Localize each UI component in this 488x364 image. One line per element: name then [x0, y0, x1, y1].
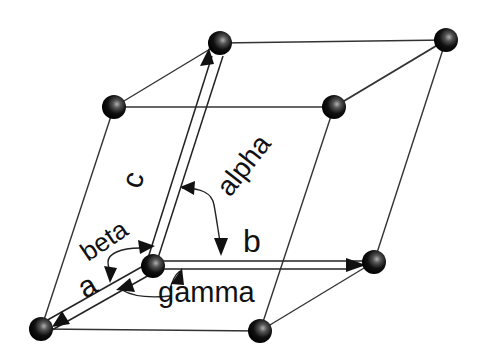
vector-b-arrow [160, 258, 366, 272]
label-b: b [243, 223, 261, 259]
label-a: a [72, 267, 103, 304]
edge-top-right [334, 40, 446, 107]
label-alpha: alpha [210, 128, 277, 201]
label-gamma: gamma [158, 276, 256, 308]
atom-b-plus-c [434, 28, 458, 52]
atom-a-end [29, 317, 53, 341]
atom-a-plus-b-plus-c [322, 95, 346, 119]
labels: c alpha beta a b gamma [72, 128, 278, 308]
label-c: c [114, 167, 150, 191]
beta-arrowhead-a [104, 266, 117, 283]
unit-cell-diagram: c alpha beta a b gamma [0, 0, 488, 364]
atom-a-plus-b [248, 319, 272, 343]
atom-b-end [362, 250, 386, 274]
edge-top-back [220, 40, 446, 43]
edge-top-left [114, 43, 220, 107]
edge-front-left-vertical [41, 107, 114, 329]
atom-a-plus-c [102, 95, 126, 119]
atom-origin [141, 254, 165, 278]
atom-c-end [208, 31, 232, 55]
alpha-arrowhead-b [214, 238, 228, 256]
edge-bottom-front [41, 329, 260, 331]
label-beta: beta [75, 214, 134, 267]
edge-bottom-right [260, 262, 374, 331]
edge-back-right-vertical [374, 40, 446, 262]
edge-front-right-vertical [260, 107, 334, 331]
